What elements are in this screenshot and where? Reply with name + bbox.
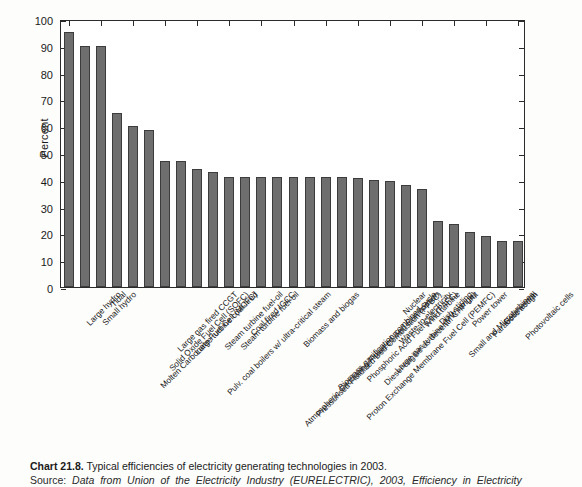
bar (513, 241, 523, 287)
bar (337, 177, 347, 287)
y-tick-label: 70 (41, 96, 53, 107)
caption-source-head: Source: (30, 474, 66, 486)
x-tick-label: Biomass and biogas (302, 290, 361, 349)
bar (240, 177, 250, 287)
y-tick-label: 50 (41, 150, 53, 161)
bar (305, 177, 315, 287)
y-tick-label: 10 (41, 257, 53, 268)
bar (417, 189, 427, 287)
chart-figure: Percent 0102030405060708090100 Large hyd… (0, 0, 582, 487)
y-tick-label: 90 (41, 42, 53, 53)
caption-title: Typical efficiencies of electricity gene… (86, 460, 386, 472)
y-tick-label: 100 (35, 16, 53, 27)
bar (64, 32, 74, 287)
bar (256, 177, 266, 287)
bar (80, 46, 90, 287)
bar (321, 177, 331, 287)
plot-frame: 0102030405060708090100 (60, 20, 525, 288)
bar (112, 113, 122, 287)
y-tick-label: 30 (41, 203, 53, 214)
x-axis-labels: Large hydroSmall hydroTidalMolten Carbon… (60, 290, 525, 430)
bar (224, 177, 234, 287)
bar (481, 236, 491, 287)
bar (385, 181, 395, 287)
bar (401, 185, 411, 287)
y-tick-label: 40 (41, 176, 53, 187)
plot-area: Percent 0102030405060708090100 Large hyd… (0, 0, 582, 430)
bar (96, 46, 106, 287)
bar (176, 161, 186, 287)
y-tick-label: 0 (47, 284, 53, 295)
figure-caption: Chart 21.8. Typical efficiencies of elec… (30, 460, 570, 487)
bar (497, 241, 507, 287)
bar (353, 178, 363, 287)
bar (449, 224, 459, 287)
caption-label: Chart 21.8. (30, 460, 84, 472)
bar (160, 161, 170, 287)
bar (465, 232, 475, 287)
y-tick-label: 80 (41, 69, 53, 80)
caption-source: Source: Data from Union of the Electrici… (30, 474, 570, 487)
y-tick-label: 60 (41, 123, 53, 134)
bar (144, 130, 154, 287)
bar-series (61, 21, 524, 287)
bar (289, 177, 299, 287)
bar (433, 221, 443, 287)
y-tick-label: 20 (41, 230, 53, 241)
caption-source-text: Data from Union of the Electricity Indus… (72, 474, 522, 486)
bar (369, 180, 379, 287)
bar (272, 177, 282, 287)
bar (208, 172, 218, 287)
bar (128, 126, 138, 287)
bar (192, 169, 202, 287)
